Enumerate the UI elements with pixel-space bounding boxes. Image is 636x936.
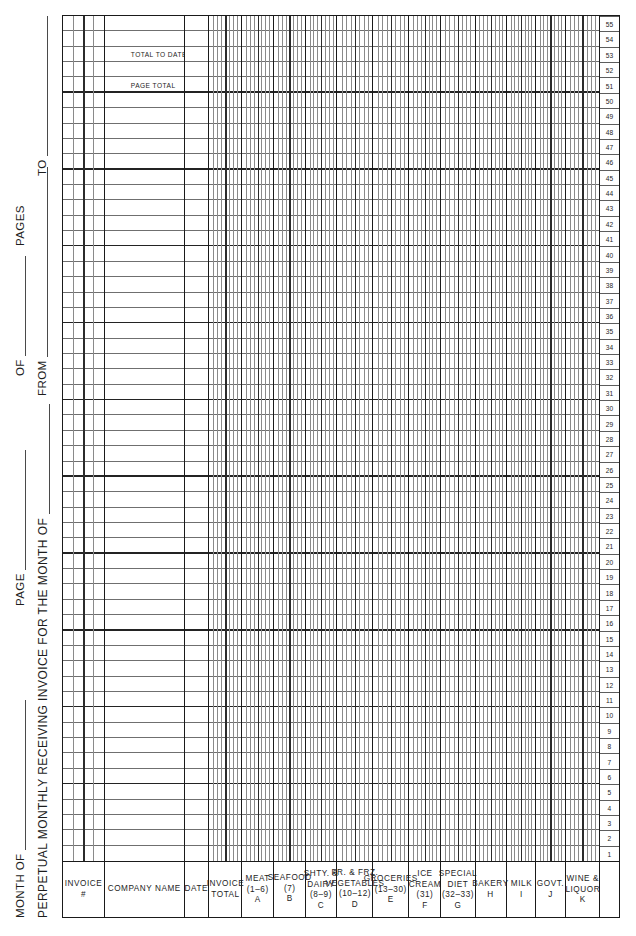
- column-header-line: GOVT.: [537, 879, 564, 890]
- sub-column-divider: [351, 16, 352, 861]
- row-divider: [105, 829, 184, 830]
- row-divider: [105, 261, 184, 262]
- row-number: 30: [606, 405, 614, 412]
- row-divider: [185, 814, 208, 815]
- to-field[interactable]: TO: [36, 16, 48, 176]
- row-divider: [105, 307, 184, 308]
- sub-column-divider: [313, 16, 314, 861]
- column-cells-special_diet[interactable]: [441, 16, 475, 861]
- row-number: 49: [606, 113, 614, 120]
- column-cells-invoice_total[interactable]: [209, 16, 241, 861]
- row-divider: [105, 552, 184, 554]
- row-divider: [185, 507, 208, 508]
- column-cells-company_name[interactable]: PAGE TOTALTOTAL TO DATE: [105, 16, 184, 861]
- sub-column-divider: [543, 16, 544, 861]
- sub-column-divider: [261, 16, 262, 861]
- page-number-blank[interactable]: [15, 450, 26, 570]
- row-divider: [185, 645, 208, 646]
- column-cells-govt[interactable]: [536, 16, 565, 861]
- from-label: FROM: [36, 361, 48, 396]
- row-divider: [185, 384, 208, 385]
- sub-column-divider: [217, 16, 218, 861]
- row-divider: [105, 583, 184, 584]
- column-header-code: I: [510, 890, 531, 901]
- row-number-cell: 43: [600, 200, 619, 215]
- row-number: 32: [606, 374, 614, 381]
- column-cells-date[interactable]: [185, 16, 208, 861]
- row-number: 28: [606, 436, 614, 443]
- row-number-cell: 30: [600, 400, 619, 415]
- month-of-blank[interactable]: [15, 700, 26, 850]
- sub-column-divider: [269, 16, 270, 861]
- month-of-label: MONTH OF: [14, 853, 26, 918]
- row-divider: [105, 215, 184, 216]
- row-number-cell: 10: [600, 707, 619, 722]
- column-header-line: DIET: [439, 879, 477, 890]
- column-cells-groceries[interactable]: [373, 16, 408, 861]
- row-divider: [105, 599, 184, 600]
- row-divider: [185, 614, 208, 615]
- row-divider: [185, 230, 208, 231]
- row-divider: [185, 123, 208, 124]
- row-divider: [185, 46, 208, 47]
- column-cells-fr_frz_veg[interactable]: [337, 16, 372, 861]
- column-cells-ice_cream[interactable]: [409, 16, 440, 861]
- row-number: 48: [606, 128, 614, 135]
- from-blank[interactable]: [37, 167, 48, 357]
- title-month-blank[interactable]: [39, 404, 50, 514]
- row-number: 7: [608, 758, 612, 765]
- page-number-field[interactable]: PAGE: [14, 450, 26, 606]
- column-header-line: WINE &: [565, 874, 600, 885]
- sub-column-divider: [265, 16, 266, 861]
- column-cells-meat[interactable]: [242, 16, 273, 861]
- from-field[interactable]: FROM: [36, 167, 48, 396]
- of-field[interactable]: OF: [14, 256, 26, 376]
- row-number-cell: 1: [600, 846, 619, 861]
- row-number-cell: 44: [600, 185, 619, 200]
- row-number-cell: 17: [600, 600, 619, 615]
- form-sheet: MONTH OF PERPETUAL MONTHLY RECEIVING INV…: [0, 0, 636, 936]
- sub-column-divider: [364, 16, 365, 861]
- row-divider: [185, 475, 208, 477]
- row-number: 20: [606, 558, 614, 565]
- column-cells-bakery[interactable]: [476, 16, 507, 861]
- row-divider: [185, 537, 208, 538]
- of-blank[interactable]: [15, 256, 26, 356]
- row-number: 26: [606, 466, 614, 473]
- row-divider: [185, 568, 208, 569]
- row-number-cell: 26: [600, 462, 619, 477]
- row-number: 22: [606, 528, 614, 535]
- sub-column-divider: [561, 16, 562, 861]
- page-title: PERPETUAL MONTHLY RECEIVING INVOICE FOR …: [36, 404, 50, 918]
- row-divider: [105, 737, 184, 738]
- column-cells-seafood[interactable]: [274, 16, 305, 861]
- row-divider: [105, 338, 184, 339]
- sub-column-divider: [462, 16, 463, 861]
- row-divider: [185, 691, 208, 692]
- column-cells-shty_dairy[interactable]: [306, 16, 337, 861]
- row-number: 31: [606, 389, 614, 396]
- month-of-field[interactable]: MONTH OF: [14, 700, 26, 918]
- row-number: 45: [606, 174, 614, 181]
- column-band-bakery: BAKERYH: [476, 16, 508, 917]
- sub-column-divider: [421, 16, 422, 861]
- sub-column-divider: [378, 16, 379, 861]
- column-header-groceries: GROCERIES(13–30)E: [373, 861, 408, 917]
- row-number-cell: 49: [600, 108, 619, 123]
- column-cells-wine_liquor[interactable]: [566, 16, 599, 861]
- column-header-line: LIQUOR: [565, 884, 600, 895]
- to-blank[interactable]: [37, 16, 48, 156]
- row-divider: [185, 706, 208, 708]
- row-divider: [105, 91, 184, 93]
- sub-column-divider: [445, 16, 446, 861]
- column-cells-invoice_no[interactable]: [63, 16, 104, 861]
- row-divider: [185, 461, 208, 462]
- sub-column-divider: [499, 16, 500, 861]
- row-number-cell: 29: [600, 415, 619, 430]
- sub-column-divider: [550, 16, 551, 861]
- column-cells-milk[interactable]: [507, 16, 535, 861]
- row-number: 36: [606, 313, 614, 320]
- row-divider: [185, 338, 208, 339]
- row-divider: [185, 845, 208, 846]
- sub-column-divider: [329, 16, 330, 861]
